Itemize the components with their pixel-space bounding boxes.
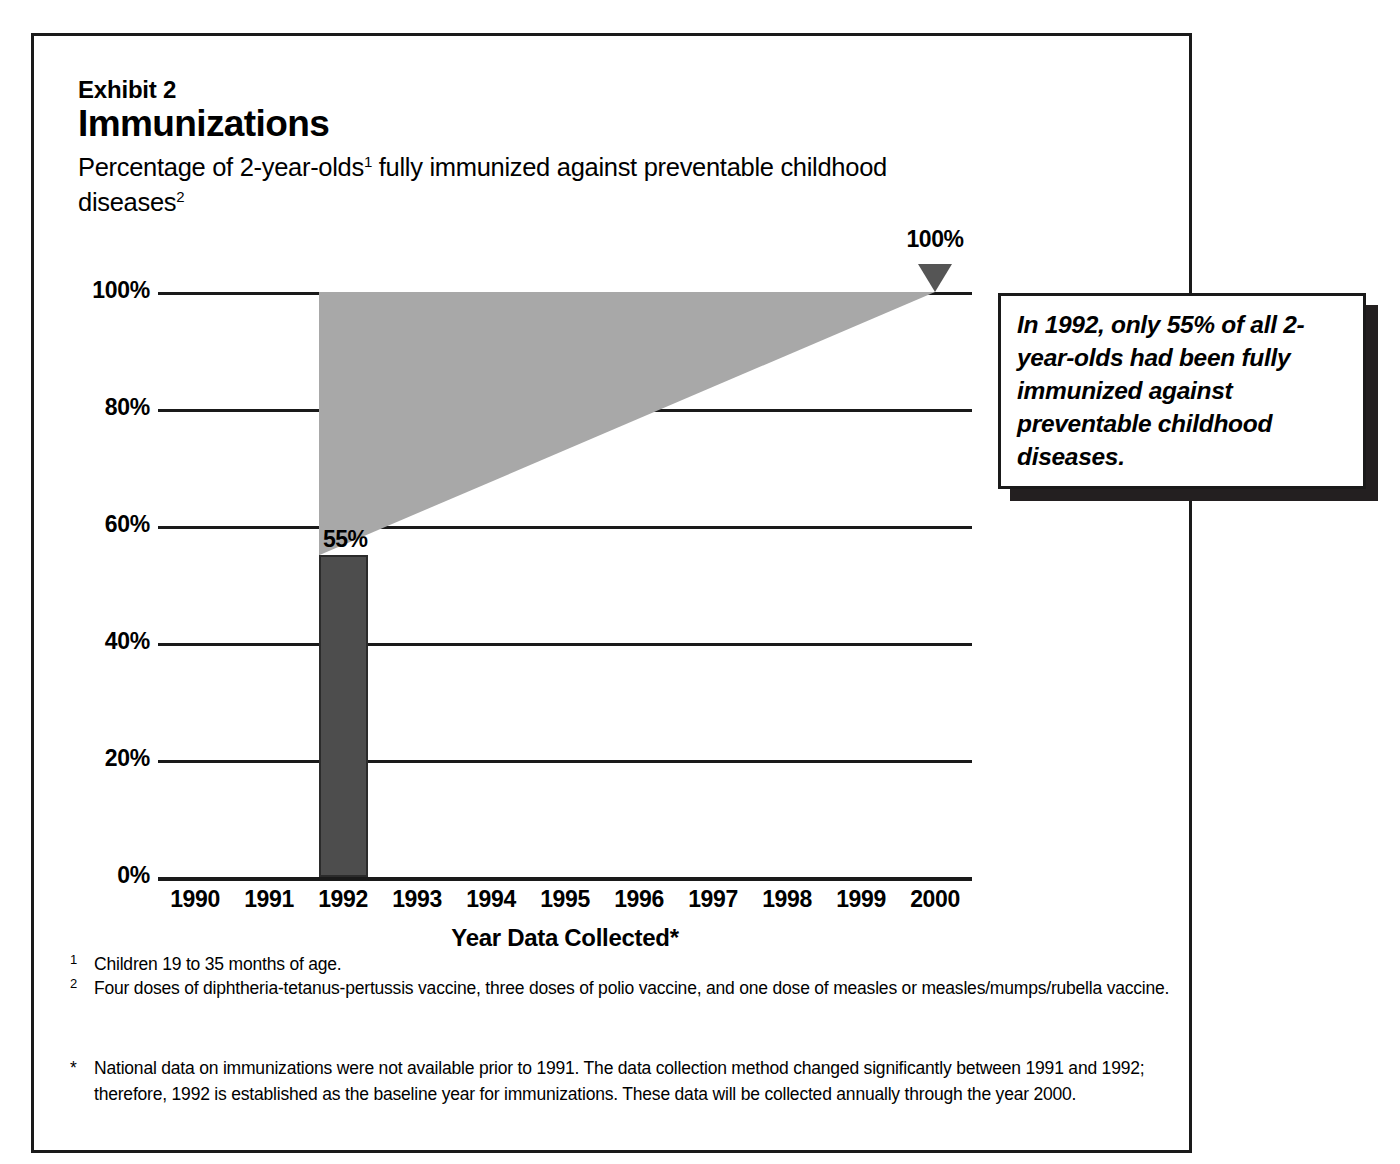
footnote-item: 1Children 19 to 35 months of age. <box>70 952 1180 976</box>
footnote-list: 1Children 19 to 35 months of age.2Four d… <box>70 952 1180 1000</box>
projection-wedge <box>319 292 935 555</box>
x-axis-tick-label-1991: 1991 <box>232 886 306 913</box>
x-axis-tick-label-1996: 1996 <box>602 886 676 913</box>
x-axis-line <box>158 877 972 881</box>
x-axis-tick-label-1995: 1995 <box>528 886 602 913</box>
y-axis-tick-label: 20% <box>60 745 150 772</box>
bar-1992 <box>319 555 368 877</box>
target-marker-triangle-icon <box>918 264 952 292</box>
footnote-asterisk: *National data on immunizations were not… <box>70 1055 1194 1107</box>
footnote-marker: 2 <box>70 972 90 996</box>
y-axis-tick-label: 60% <box>60 511 150 538</box>
callout-box: In 1992, only 55% of all 2-year-olds had… <box>998 293 1366 489</box>
footnote-text: National data on immunizations were not … <box>94 1058 1144 1104</box>
footnote-marker: 1 <box>70 948 90 972</box>
x-axis-tick-label-1997: 1997 <box>676 886 750 913</box>
footnote-item: 2Four doses of diphtheria-tetanus-pertus… <box>70 976 1180 1000</box>
x-axis-tick-label-1998: 1998 <box>750 886 824 913</box>
x-axis-tick-label-1990: 1990 <box>158 886 232 913</box>
footnote-text: Children 19 to 35 months of age. <box>94 954 342 974</box>
y-axis-tick-label: 40% <box>60 628 150 655</box>
callout-text: In 1992, only 55% of all 2-year-olds had… <box>1017 308 1317 473</box>
gridline-40pct <box>158 643 972 646</box>
y-axis-tick-label: 100% <box>60 277 150 304</box>
gridline-20pct <box>158 760 972 763</box>
x-axis-title: Year Data Collected* <box>158 924 972 952</box>
x-axis-tick-label-1992: 1992 <box>306 886 380 913</box>
footnote-text: Four doses of diphtheria-tetanus-pertuss… <box>94 978 1169 998</box>
y-axis-tick-label: 80% <box>60 394 150 421</box>
x-axis-tick-label-1994: 1994 <box>454 886 528 913</box>
y-axis-tick-label: 0% <box>60 862 150 889</box>
footnote-marker: * <box>70 1055 90 1081</box>
x-axis-tick-label-1993: 1993 <box>380 886 454 913</box>
exhibit-page: Exhibit 2 Immunizations Percentage of 2-… <box>0 0 1400 1164</box>
x-axis-tick-label-1999: 1999 <box>824 886 898 913</box>
bar-value-label-1992: 55% <box>323 526 368 553</box>
target-marker-label: 100% <box>890 226 980 253</box>
x-axis-tick-label-2000: 2000 <box>898 886 972 913</box>
